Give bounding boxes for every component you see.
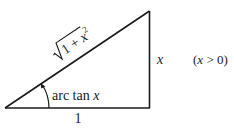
opposite-label: x [156, 52, 164, 67]
angle-arc [43, 85, 50, 108]
adjacent-label: 1 [75, 111, 82, 126]
hypotenuse-label: 1 + x2 [49, 24, 94, 63]
condition-label: (x > 0) [193, 52, 228, 67]
right-triangle-diagram: 1 + x2 arc tan x 1 x (x > 0) [0, 0, 234, 137]
angle-label: arc tan x [52, 88, 100, 103]
